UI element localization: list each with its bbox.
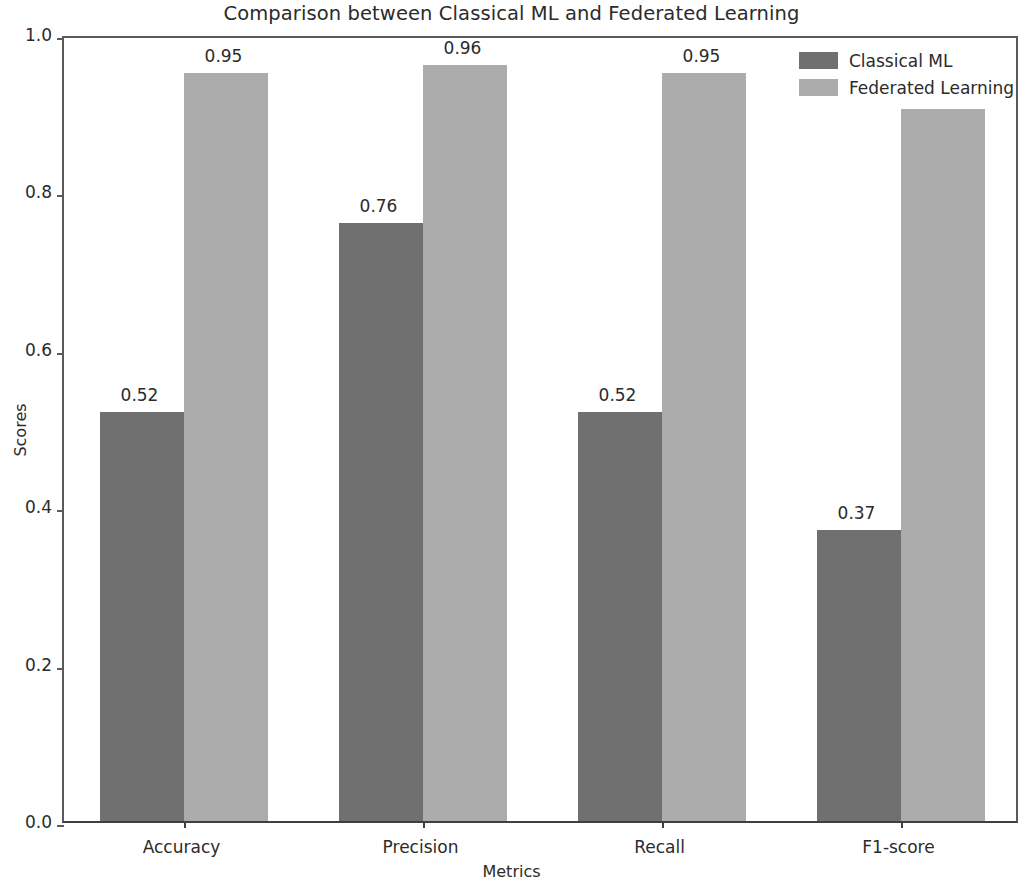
- x-axis-tick-label: Precision: [383, 837, 459, 857]
- y-axis-tick-mark: [57, 38, 64, 40]
- bar-accuracy-federated-learning: [184, 73, 268, 821]
- x-axis-tick-label: Recall: [634, 837, 685, 857]
- x-axis-tick-mark: [901, 821, 903, 828]
- bar-precision-federated-learning: [423, 65, 507, 821]
- bar-value-label: 0.52: [556, 385, 680, 405]
- bar-value-label: 0.52: [78, 385, 202, 405]
- y-axis-tick-label: 0.8: [0, 182, 52, 202]
- x-axis-tick-mark: [184, 821, 186, 828]
- legend-swatch-federated-learning: [799, 79, 838, 96]
- bar-value-label: 0.95: [162, 46, 286, 66]
- chart-legend: Classical ML Federated Learning: [789, 40, 1011, 109]
- y-axis-label: Scores: [11, 403, 30, 456]
- y-axis-tick-mark: [57, 510, 64, 512]
- bars-layer: [64, 38, 1016, 821]
- plot-area: Scores: [62, 36, 1018, 823]
- bar-value-label: 0.95: [640, 46, 764, 66]
- x-axis-label: Metrics: [0, 862, 1023, 881]
- y-axis-tick-label: 0.4: [0, 497, 52, 517]
- legend-item: Federated Learning: [799, 74, 1002, 101]
- legend-label-classical-ml: Classical ML: [849, 51, 952, 71]
- x-axis-tick-mark: [662, 821, 664, 828]
- bar-chart-figure: Comparison between Classical ML and Fede…: [0, 0, 1023, 881]
- y-axis-tick-mark: [57, 195, 64, 197]
- bar-accuracy-classical-ml: [100, 412, 184, 821]
- y-axis-tick-label: 0.2: [0, 655, 52, 675]
- y-axis-tick-mark: [57, 353, 64, 355]
- y-axis-tick-label: 1.0: [0, 25, 52, 45]
- bar-value-label: 0.76: [317, 196, 441, 216]
- legend-item: Classical ML: [799, 47, 1002, 74]
- y-axis-tick-mark: [57, 668, 64, 670]
- y-axis-tick-mark: [57, 825, 64, 827]
- legend-swatch-classical-ml: [799, 52, 838, 69]
- x-axis-tick-mark: [423, 821, 425, 828]
- bar-value-label: 0.37: [795, 503, 919, 523]
- bar-f1-score-classical-ml: [817, 530, 901, 821]
- legend-label-federated-learning: Federated Learning: [849, 78, 1014, 98]
- chart-title: Comparison between Classical ML and Fede…: [0, 2, 1023, 25]
- x-axis-tick-label: Accuracy: [143, 837, 221, 857]
- bar-f1-score-federated-learning: [901, 97, 985, 821]
- bar-recall-federated-learning: [662, 73, 746, 821]
- x-axis-tick-label: F1-score: [862, 837, 934, 857]
- bar-precision-classical-ml: [339, 223, 423, 821]
- bar-value-label: 0.96: [401, 38, 525, 58]
- bar-recall-classical-ml: [578, 412, 662, 821]
- y-axis-tick-label: 0.6: [0, 340, 52, 360]
- y-axis-tick-label: 0.0: [0, 812, 52, 832]
